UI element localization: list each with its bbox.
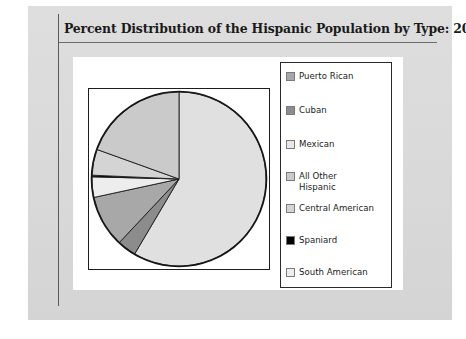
legend-swatch-icon [286,268,295,277]
legend-item-mexican[interactable]: Mexican [286,139,334,150]
legend-item-label: South American [299,267,368,278]
slide-page: Percent Distribution of the Hispanic Pop… [0,0,466,339]
legend-item-puerto-rican[interactable]: Puerto Rican [286,71,353,82]
legend-item-label: Mexican [299,139,334,150]
legend-swatch-icon [286,172,295,181]
legend-item-south-american[interactable]: South American [286,267,368,278]
title-underline-rule [59,42,437,43]
legend-item-label: Cuban [299,105,327,116]
pie-slice-group [92,92,266,266]
legend-swatch-icon [286,204,295,213]
page-title: Percent Distribution of the Hispanic Pop… [64,21,444,36]
legend-swatch-icon [286,140,295,149]
legend-item-label: Spaniard [299,235,337,246]
legend-item-spaniard[interactable]: Spaniard [286,235,337,246]
legend-item-all-other-hispanic[interactable]: All Other Hispanic [286,171,337,192]
legend: Puerto RicanCubanMexicanAll Other Hispan… [280,62,392,288]
legend-item-label: Central American [299,203,374,214]
left-vertical-rule [58,14,59,306]
legend-item-label: All Other Hispanic [299,171,337,192]
pie-chart[interactable] [89,89,269,269]
legend-swatch-icon [286,106,295,115]
legend-item-central-american[interactable]: Central American [286,203,374,214]
legend-item-label: Puerto Rican [299,71,353,82]
legend-swatch-icon [286,236,295,245]
legend-item-cuban[interactable]: Cuban [286,105,327,116]
legend-swatch-icon [286,72,295,81]
